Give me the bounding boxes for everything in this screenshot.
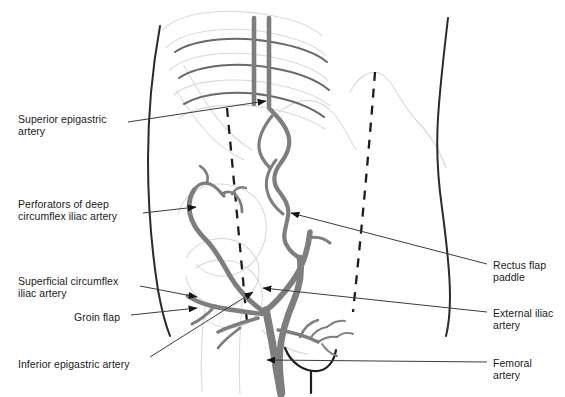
perforator-branch-4 bbox=[232, 187, 246, 194]
epigastric-arcade bbox=[269, 108, 300, 258]
torso-outline-right bbox=[437, 18, 450, 336]
superficial-branch-right-c bbox=[318, 337, 337, 342]
artery-group bbox=[188, 18, 353, 394]
epigastric-arcade-branch bbox=[259, 116, 272, 168]
rib-arc-faint-1 bbox=[163, 11, 322, 36]
rectus-flap-dashed-right bbox=[353, 72, 375, 312]
superficial-branch-right-b bbox=[310, 327, 327, 339]
figure-container: Superior epigastric artery Perforators o… bbox=[0, 0, 565, 397]
label-perforators-of-deep-circumflex-iliac-artery: Perforators of deep circumflex iliac art… bbox=[18, 198, 117, 223]
label-superficial-circumflex-iliac-artery: Superficial circumflex iliac artery bbox=[18, 275, 118, 300]
label-femoral-artery: Femoral artery bbox=[493, 357, 532, 382]
label-groin-flap: Groin flap bbox=[74, 311, 120, 323]
perforator-branch-2 bbox=[200, 166, 208, 183]
superficial-branch-right-e bbox=[327, 321, 345, 327]
label-inferior-epigastric-artery: Inferior epigastric artery bbox=[18, 358, 130, 370]
label-superior-epigastric-artery: Superior epigastric artery bbox=[18, 113, 107, 138]
perforator-branch-1 bbox=[194, 183, 224, 196]
rib-arc-faint-2 bbox=[166, 29, 326, 56]
label-external-iliac-artery: External iliac artery bbox=[493, 307, 553, 332]
leader-superficial-circumflex-iliac bbox=[140, 286, 197, 297]
leader-femoral bbox=[267, 360, 487, 362]
pubic-symphysis bbox=[285, 348, 336, 393]
thigh-contour-faint-mid bbox=[239, 302, 242, 394]
deep-circumflex-iliac-artery bbox=[189, 190, 264, 312]
label-rectus-flap-paddle: Rectus flap paddle bbox=[493, 259, 546, 284]
costal-margin-faint bbox=[176, 90, 244, 160]
abdomen-contour-faint bbox=[350, 72, 446, 168]
superficial-branch-right-d bbox=[322, 344, 337, 356]
superficial-branch-right-f bbox=[337, 333, 353, 337]
